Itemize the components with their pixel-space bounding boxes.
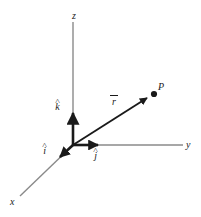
k-hat-letter: k <box>55 102 59 112</box>
y-axis-label: y <box>186 140 190 150</box>
r-vector-letter: r <box>112 97 116 107</box>
i-hat-letter: i <box>43 146 46 156</box>
coordinate-system-figure: z y x ˄ k ˄ j ˄ i r P <box>0 0 201 217</box>
k-hat-label: ˄ k <box>55 97 60 112</box>
j-hat-label: ˄ j <box>93 146 98 161</box>
j-hat-letter: j <box>94 151 97 161</box>
figure-canvas <box>0 0 201 217</box>
x-axis-label: x <box>10 197 14 207</box>
i-hat-label: ˄ i <box>42 141 47 156</box>
z-axis-label: z <box>72 11 76 21</box>
point-P-dot <box>151 91 157 97</box>
i-hat-arrow <box>60 145 73 157</box>
r-vector-label: r <box>110 95 118 107</box>
point-P-label: P <box>158 82 164 92</box>
